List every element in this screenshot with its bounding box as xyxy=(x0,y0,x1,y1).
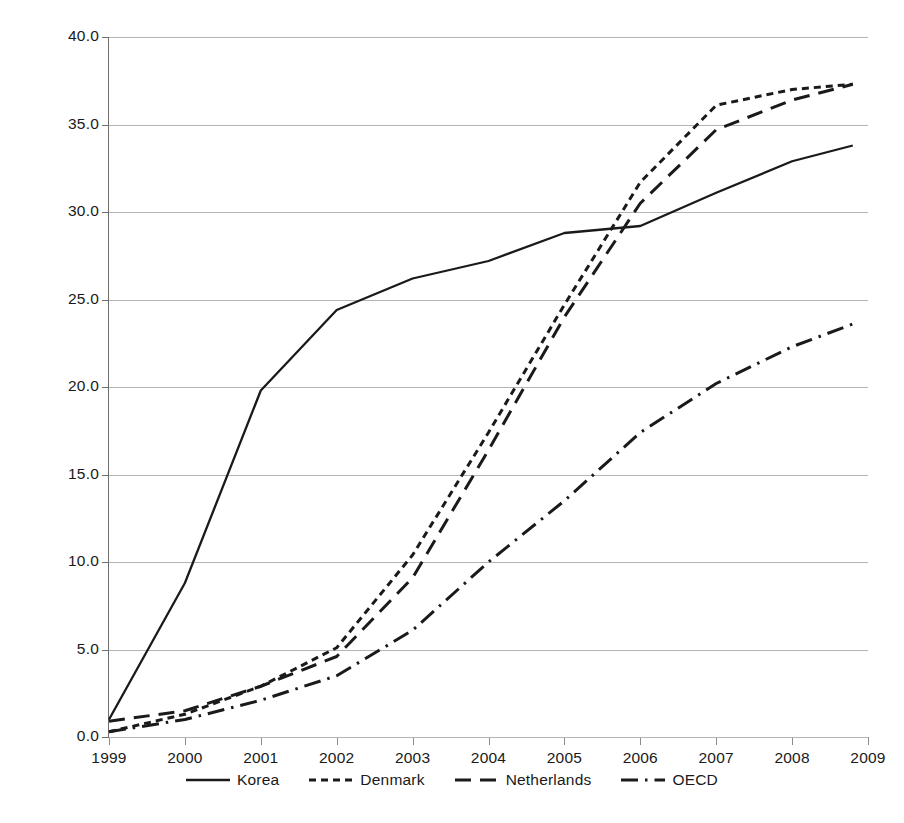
x-tick-label: 2008 xyxy=(752,749,832,767)
chart-container: 0.05.010.015.020.025.030.035.040.0 19992… xyxy=(0,0,904,823)
gridline-y-5.0 xyxy=(109,650,868,651)
x-tick-label: 2005 xyxy=(524,749,604,767)
y-tick-label: 0.0 xyxy=(0,727,99,745)
legend-entry-oecd[interactable]: OECD xyxy=(621,771,718,789)
gridline-y-40.0 xyxy=(109,37,868,38)
gridline-y-25.0 xyxy=(109,300,868,301)
x-tick-mark xyxy=(868,738,869,745)
y-tick-label: 35.0 xyxy=(0,115,99,133)
x-tick-label: 2007 xyxy=(676,749,756,767)
x-tick-mark xyxy=(337,738,338,745)
plot-area xyxy=(109,37,868,737)
y-tick-label: 20.0 xyxy=(0,377,99,395)
y-tick-mark xyxy=(102,475,109,476)
x-tick-label: 2003 xyxy=(373,749,453,767)
x-tick-label: 2002 xyxy=(297,749,377,767)
y-tick-label: 40.0 xyxy=(0,27,99,45)
y-tick-mark xyxy=(102,562,109,563)
x-tick-mark xyxy=(489,738,490,745)
y-tick-label: 30.0 xyxy=(0,202,99,220)
y-tick-mark xyxy=(102,650,109,651)
y-tick-label: 15.0 xyxy=(0,465,99,483)
legend-label: OECD xyxy=(672,771,718,789)
y-tick-mark xyxy=(102,212,109,213)
gridline-y-20.0 xyxy=(109,387,868,388)
chart-legend: KoreaDenmarkNetherlandsOECD xyxy=(0,771,904,789)
y-tick-mark xyxy=(102,125,109,126)
legend-label: Denmark xyxy=(360,771,424,789)
gridline-y-15.0 xyxy=(109,475,868,476)
gridline-y-10.0 xyxy=(109,562,868,563)
x-tick-mark xyxy=(640,738,641,745)
legend-entry-denmark[interactable]: Denmark xyxy=(309,771,424,789)
legend-label: Korea xyxy=(237,771,279,789)
gridline-y-30.0 xyxy=(109,212,868,213)
x-tick-label: 2004 xyxy=(449,749,529,767)
y-tick-mark xyxy=(102,300,109,301)
x-tick-mark xyxy=(109,738,110,745)
y-tick-mark xyxy=(102,37,109,38)
legend-swatch-dotted-icon xyxy=(309,773,353,787)
x-tick-mark xyxy=(413,738,414,745)
y-tick-label: 25.0 xyxy=(0,290,99,308)
y-tick-label: 5.0 xyxy=(0,640,99,658)
x-tick-mark xyxy=(716,738,717,745)
x-tick-label: 1999 xyxy=(69,749,149,767)
x-tick-label: 2006 xyxy=(600,749,680,767)
legend-entry-korea[interactable]: Korea xyxy=(186,771,279,789)
gridline-y-35.0 xyxy=(109,125,868,126)
legend-entry-netherlands[interactable]: Netherlands xyxy=(455,771,592,789)
x-tick-mark xyxy=(261,738,262,745)
x-tick-mark xyxy=(185,738,186,745)
legend-swatch-dash-dot-icon xyxy=(621,773,665,787)
x-tick-label: 2000 xyxy=(145,749,225,767)
legend-label: Netherlands xyxy=(506,771,592,789)
x-tick-label: 2009 xyxy=(828,749,904,767)
y-tick-mark xyxy=(102,737,109,738)
x-tick-mark xyxy=(564,738,565,745)
x-tick-label: 2001 xyxy=(221,749,301,767)
y-tick-label: 10.0 xyxy=(0,552,99,570)
y-tick-mark xyxy=(102,387,109,388)
legend-swatch-solid-icon xyxy=(186,773,230,787)
legend-swatch-dashed-icon xyxy=(455,773,499,787)
x-tick-mark xyxy=(792,738,793,745)
